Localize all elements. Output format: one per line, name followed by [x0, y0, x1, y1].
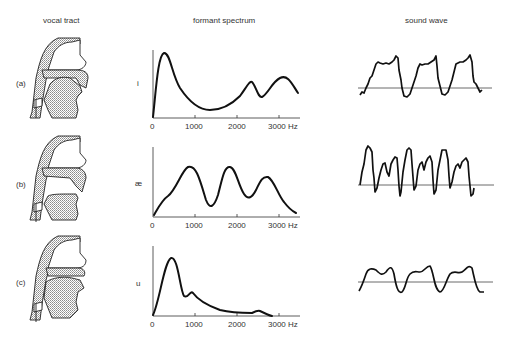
- vocal-tract-c: [30, 236, 86, 322]
- spectrum-axes: [153, 50, 300, 316]
- vocal-tract-b: [30, 136, 86, 222]
- sound-wave-c: [359, 266, 484, 292]
- spectrum-curve-i: [153, 53, 298, 117]
- diagram-canvas: [0, 0, 511, 341]
- sound-wave-a: [360, 55, 482, 97]
- spectrum-curve-u: [153, 258, 272, 316]
- spectrum-curve-ae: [154, 167, 296, 215]
- sound-wave-b: [360, 146, 474, 196]
- vocal-tract-a: [30, 38, 88, 118]
